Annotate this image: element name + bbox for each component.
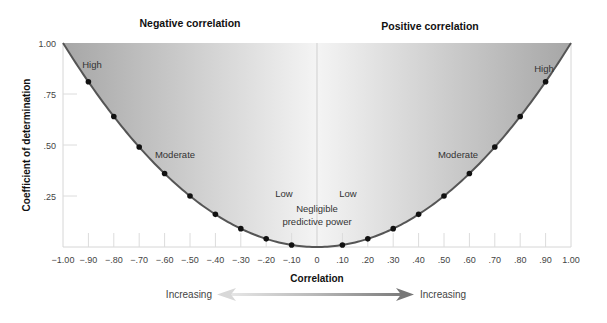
data-point	[543, 79, 549, 85]
data-point	[390, 226, 396, 232]
increasing-right-label: Increasing	[420, 289, 466, 300]
x-tick-label: −1.00	[52, 255, 75, 265]
x-tick-label: .20	[362, 255, 375, 265]
x-tick-label: 1.00	[562, 255, 580, 265]
annotation-label: Moderate	[155, 149, 195, 160]
chart-svg: Negative correlationPositive correlation…	[0, 0, 607, 323]
data-point	[289, 242, 295, 248]
x-tick-label: .40	[412, 255, 425, 265]
x-tick-label: −.20	[257, 255, 275, 265]
data-point	[517, 114, 523, 120]
data-point	[136, 144, 142, 150]
arrow-shaft	[228, 293, 404, 296]
y-tick-label: .25	[43, 192, 56, 202]
annotation-label: predictive power	[282, 216, 351, 227]
annotation-label: Low	[275, 188, 293, 199]
x-tick-label: .90	[539, 255, 552, 265]
data-point	[492, 144, 498, 150]
annotation-label: Low	[339, 188, 357, 199]
annotation-label: Negligible	[296, 203, 338, 214]
x-tick-label: −.90	[80, 255, 98, 265]
x-tick-label: −.40	[207, 255, 225, 265]
data-point	[187, 193, 193, 199]
y-tick-label: .50	[43, 141, 56, 151]
x-tick-label: −.10	[283, 255, 301, 265]
x-tick-label: −.70	[130, 255, 148, 265]
data-point	[213, 212, 219, 218]
x-tick-label: .80	[514, 255, 527, 265]
y-tick-label: .75	[43, 90, 56, 100]
data-point	[263, 236, 269, 242]
data-point	[162, 171, 168, 177]
x-axis-label: Correlation	[290, 273, 343, 284]
x-tick-label: −.60	[156, 255, 174, 265]
y-tick-label: 1.00	[38, 39, 56, 49]
data-point	[238, 226, 244, 232]
annotation-label: Moderate	[438, 149, 478, 160]
x-tick-label: 0	[314, 255, 319, 265]
increasing-arrow: IncreasingIncreasing	[166, 288, 466, 301]
x-tick-label: .70	[489, 255, 502, 265]
negative-correlation-title: Negative correlation	[140, 17, 241, 29]
data-point	[111, 114, 117, 120]
x-tick-label: .50	[438, 255, 451, 265]
x-tick-label: −.50	[181, 255, 199, 265]
data-point	[416, 212, 422, 218]
x-tick-label: −.80	[105, 255, 123, 265]
x-tick-label: .10	[336, 255, 349, 265]
data-point	[441, 193, 447, 199]
data-point	[340, 242, 346, 248]
x-tick-label: .30	[387, 255, 400, 265]
x-tick-label: .60	[463, 255, 476, 265]
annotation-label: High	[534, 63, 554, 74]
x-tick-label: −.30	[232, 255, 250, 265]
increasing-left-label: Increasing	[166, 289, 212, 300]
y-axis-label: Coefficient of determination	[21, 79, 32, 212]
positive-correlation-title: Positive correlation	[381, 20, 478, 32]
annotation-label: High	[82, 59, 102, 70]
data-point	[86, 79, 92, 85]
data-point	[467, 171, 473, 177]
data-point	[365, 236, 371, 242]
